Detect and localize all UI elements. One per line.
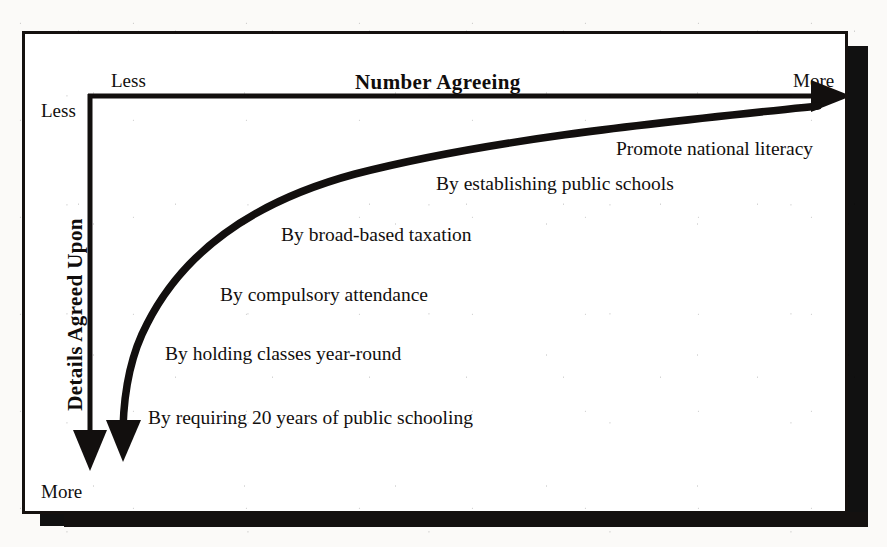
y-axis-title: Details Agreed Upon (63, 205, 88, 425)
x-axis-more-label: More (793, 70, 834, 92)
x-axis-less-label: Less (111, 70, 146, 92)
curve-annotation-label: By broad-based taxation (281, 224, 472, 246)
figure-page: Number Agreeing Details Agreed Upon Less… (0, 0, 887, 547)
curve-annotation-label: By compulsory attendance (220, 284, 428, 306)
y-axis-more-label: More (41, 481, 82, 503)
curve-annotation-label: Promote national literacy (616, 138, 813, 160)
curve-annotation-label: By requiring 20 years of public schoolin… (148, 407, 473, 429)
chart-surface: Number Agreeing Details Agreed Upon Less… (25, 34, 845, 511)
curve-annotation-label: By holding classes year-round (165, 343, 401, 365)
x-axis-title: Number Agreeing (355, 70, 521, 95)
curve-annotation-label: By establishing public schools (436, 173, 674, 195)
chart-axes-and-curve (25, 34, 845, 511)
figure-frame: Number Agreeing Details Agreed Upon Less… (22, 31, 848, 514)
y-axis-less-label: Less (41, 100, 76, 122)
page-bottom-bleed (64, 512, 868, 527)
